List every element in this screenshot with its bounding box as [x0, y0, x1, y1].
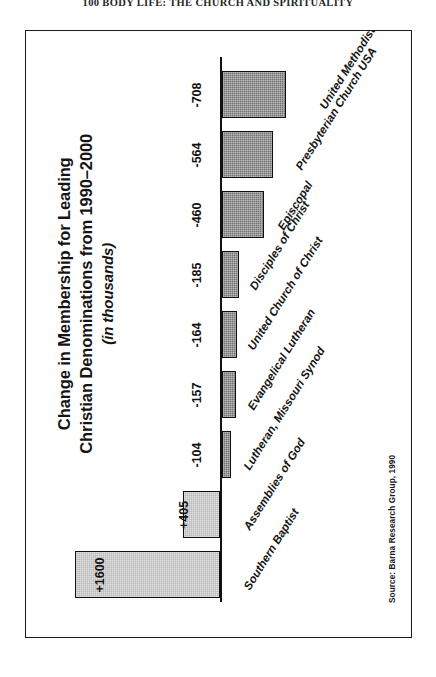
value-label-episcopal: -460 — [190, 185, 204, 245]
bar-episcopal — [222, 191, 264, 238]
value-label-southern-baptist: +1600 — [93, 543, 107, 607]
value-label-united-church-of-christ: -164 — [190, 305, 204, 365]
bar-presbyterian-church-usa — [222, 131, 273, 178]
bar-lutheran-missouri-synod — [222, 431, 231, 478]
value-label-lutheran-missouri-synod: -104 — [190, 425, 204, 485]
value-label-united-methodist: -708 — [190, 65, 204, 125]
page-running-head: 100 BODY LIFE: THE CHURCH AND SPIRITUALI… — [0, 0, 436, 8]
category-label-united-church-of-christ: United Church of Christ — [244, 234, 324, 352]
bar-evangelical-lutheran — [222, 371, 236, 418]
value-label-assemblies-of-god: +405 — [177, 485, 191, 545]
value-label-evangelical-lutheran: -157 — [190, 365, 204, 425]
source-note: Source: Barna Research Group, 1990 — [388, 455, 397, 603]
figure-frame: Change in Membership for Leading Christi… — [25, 30, 412, 638]
value-label-disciples-of-christ: -185 — [190, 245, 204, 305]
chart-plot-area: -708 -564 -460 -185 -164 -157 -104 +405 … — [26, 31, 412, 638]
category-label-presbyterian-church-usa: Presbyterian Church USA — [292, 45, 378, 172]
bar-united-methodist — [222, 71, 286, 118]
bar-united-church-of-christ — [222, 311, 237, 358]
value-label-presbyterian-church-usa: -564 — [190, 125, 204, 185]
bar-disciples-of-christ — [222, 251, 239, 298]
